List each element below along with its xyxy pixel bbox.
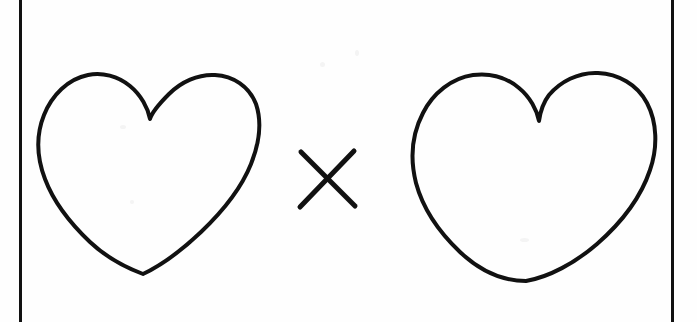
drawing-canvas: heart × heart [0,0,697,322]
multiplication-sign-icon [300,151,355,207]
right-heart-outline [413,73,656,281]
scanned-page: heart × heart [0,0,697,322]
right-heart [413,73,656,281]
left-heart [38,74,259,274]
left-heart-outline [38,74,259,274]
